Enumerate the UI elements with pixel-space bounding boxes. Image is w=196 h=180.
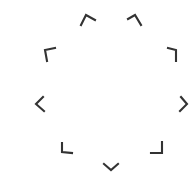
chevron-left-icon bbox=[36, 97, 44, 111]
chevron-ring-figure bbox=[0, 0, 196, 180]
chevron-down-icon bbox=[104, 164, 118, 170]
corner-top-right-icon bbox=[168, 48, 176, 61]
corner-bottom-right-icon bbox=[151, 142, 162, 153]
chevron-up-icon bbox=[81, 15, 95, 25]
chevron-right-icon bbox=[180, 97, 187, 111]
chevron-ring-canvas bbox=[0, 0, 196, 180]
corner-bottom-left-icon bbox=[62, 143, 72, 153]
chevron-up-icon bbox=[128, 15, 141, 25]
corner-top-left-icon bbox=[45, 48, 55, 61]
